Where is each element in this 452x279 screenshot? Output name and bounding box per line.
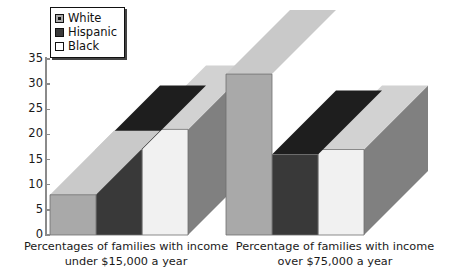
y-axis-tick-label: 35 [28, 53, 43, 65]
y-axis-tick-label: 30 [28, 78, 43, 90]
y-axis-tick-label: 5 [36, 204, 43, 216]
dark-swatch [55, 28, 64, 37]
chart-legend: WhiteHispanicBlack [50, 7, 125, 58]
bar-front-face-black [142, 129, 188, 235]
bar-front-face-white [226, 74, 272, 235]
bar-chart: 05101520253035 WhiteHispanicBlack Percen… [0, 0, 452, 279]
legend-item-label: Black [68, 41, 99, 53]
legend-item-label: White [68, 13, 101, 25]
bar-top-face-white [226, 10, 336, 74]
y-axis-tick [45, 234, 50, 236]
bar-front-face-black [318, 150, 364, 235]
y-axis-tick-label: 20 [28, 128, 43, 140]
y-axis-tick-label: 0 [36, 229, 43, 241]
gray-swatch [55, 14, 64, 23]
bar-front-face-white [50, 195, 96, 235]
y-axis-tick-label: 15 [28, 154, 43, 166]
y-axis-tick [45, 109, 50, 111]
legend-item-white[interactable]: White [55, 12, 117, 25]
legend-item-black[interactable]: Black [55, 40, 117, 53]
legend-item-hispanic[interactable]: Hispanic [55, 26, 117, 39]
x-axis-label-group-2: Percentage of families with income over … [224, 240, 446, 270]
legend-item-label: Hispanic [68, 27, 117, 39]
y-axis-tick [45, 134, 50, 136]
y-axis-tick-label: 10 [28, 179, 43, 191]
y-axis-tick [45, 184, 50, 186]
white-swatch [55, 42, 64, 51]
y-axis-tick-label: 25 [28, 103, 43, 115]
y-axis-tick [45, 58, 50, 60]
y-axis-tick [45, 159, 50, 161]
x-axis-label-group-1: Percentages of families with income unde… [18, 240, 234, 270]
bar-front-face-hispanic [272, 155, 318, 235]
y-axis-tick [45, 209, 50, 211]
y-axis-tick [45, 83, 50, 85]
